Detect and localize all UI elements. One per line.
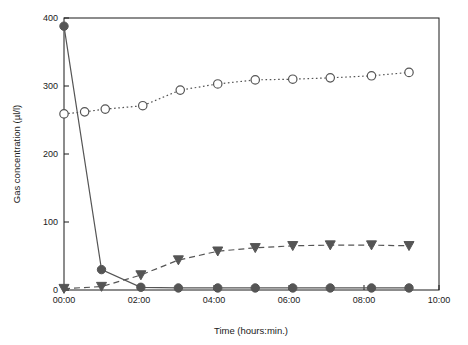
data-point-marker	[367, 284, 375, 292]
data-point-marker	[139, 102, 147, 110]
x-tick-label: 10:00	[428, 295, 451, 305]
y-tick-label: 400	[43, 13, 58, 23]
series-open-circle-series	[60, 68, 413, 118]
y-tick-label: 100	[43, 217, 58, 227]
data-point-marker	[326, 284, 334, 292]
x-tick-label: 06:00	[278, 295, 301, 305]
plot-frame	[64, 18, 439, 290]
x-tick-label: 08:00	[353, 295, 376, 305]
series-line	[64, 72, 409, 113]
gas-concentration-chart: 0100200300400 00:0002:0004:0006:0008:001…	[0, 0, 468, 345]
data-point-marker	[405, 284, 413, 292]
y-axis-title: Gas concentration (µl/l)	[11, 105, 22, 203]
data-point-marker	[173, 256, 183, 265]
data-point-marker	[60, 22, 68, 30]
y-tick-label: 300	[43, 81, 58, 91]
data-point-marker	[367, 72, 375, 80]
data-point-marker	[60, 110, 68, 118]
data-point-marker	[80, 108, 88, 116]
series-filled-circle-series	[60, 22, 413, 292]
data-point-marker	[289, 75, 297, 83]
data-point-marker	[214, 284, 222, 292]
x-tick-label: 00:00	[53, 295, 76, 305]
series-line	[64, 245, 409, 289]
data-point-marker	[97, 265, 105, 273]
chart-canvas: 0100200300400 00:0002:0004:0006:0008:001…	[0, 0, 468, 345]
y-tick-label: 0	[53, 285, 58, 295]
data-point-marker	[326, 74, 334, 82]
data-point-marker	[136, 271, 146, 280]
x-tick-label: 04:00	[203, 295, 226, 305]
data-point-marker	[174, 284, 182, 292]
data-point-marker	[289, 284, 297, 292]
data-point-marker	[137, 283, 145, 291]
data-series-layer	[59, 22, 414, 293]
data-point-marker	[101, 105, 109, 113]
data-point-marker	[404, 242, 414, 251]
x-tick-label: 02:00	[128, 295, 151, 305]
data-point-marker	[251, 76, 259, 84]
data-point-marker	[405, 68, 413, 76]
series-line	[64, 26, 409, 288]
data-point-marker	[251, 284, 259, 292]
data-point-marker	[214, 80, 222, 88]
data-point-marker	[367, 241, 377, 250]
data-point-marker	[176, 86, 184, 94]
y-axis-ticks: 0100200300400	[43, 13, 69, 295]
series-filled-triangle-series	[59, 241, 414, 294]
x-axis-title: Time (hours:min.)	[214, 325, 288, 336]
y-tick-label: 200	[43, 149, 58, 159]
